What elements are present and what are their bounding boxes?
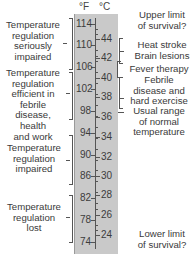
- f-label: 110: [76, 40, 91, 50]
- bracket-pointer: [118, 112, 124, 113]
- f-label: 82: [76, 193, 91, 203]
- left-annotation-seriously-impaired: Temperature regulation seriously impaire…: [2, 20, 64, 62]
- c-tick: [95, 195, 100, 196]
- bracket-seriously-impaired: [69, 18, 73, 70]
- f-label: 106: [76, 62, 91, 72]
- c-tick: [95, 39, 100, 40]
- left-annotation-impaired: Temperature regulation impaired: [2, 143, 66, 175]
- bracket-febrile: [119, 77, 123, 109]
- f-label: 74: [76, 237, 91, 247]
- f-tick: [91, 242, 96, 243]
- c-tick: [95, 117, 100, 118]
- f-label: 114: [76, 19, 91, 29]
- c-tick: [95, 78, 100, 79]
- c-tick: [95, 97, 100, 98]
- bracket-pointer: [66, 160, 70, 161]
- f-label: 94: [76, 128, 91, 138]
- c-tick: [95, 215, 100, 216]
- f-tick: [91, 198, 96, 199]
- c-label: 34: [101, 132, 112, 142]
- right-annotation-normal-range: Usual range of normal temperature: [123, 106, 195, 138]
- bracket-pointer: [120, 98, 124, 99]
- c-tick: [95, 176, 100, 177]
- c-tick: [95, 235, 100, 236]
- c-label: 36: [101, 112, 112, 122]
- f-label: 102: [76, 84, 91, 94]
- right-annotation-upper-limit: Upper limit of survival?: [128, 10, 196, 31]
- c-tick: [95, 58, 100, 59]
- f-tick: [91, 133, 96, 134]
- c-tick: [95, 137, 100, 138]
- c-label: 28: [101, 190, 112, 200]
- bracket-pointer: [63, 43, 67, 44]
- bracket-pointer: [66, 217, 70, 218]
- bracket-fever-therapy: [117, 61, 121, 78]
- right-annotation-lower-limit: Lower limit of survival?: [128, 229, 196, 250]
- c-tick: [95, 157, 100, 158]
- left-annotation-lost: Temperature regulation lost: [2, 202, 66, 234]
- c-label: 24: [101, 230, 112, 240]
- f-tick: [91, 111, 96, 112]
- c-label: 32: [101, 152, 112, 162]
- c-label: 30: [101, 171, 112, 181]
- c-label: 42: [101, 53, 112, 63]
- c-label: 38: [101, 92, 112, 102]
- right-annotation-febrile: Febrile disease and hard exercise: [123, 75, 195, 107]
- left-annotation-efficient: Temperature regulation efficient in febr…: [0, 68, 66, 142]
- f-label: 86: [76, 171, 91, 181]
- f-tick: [91, 155, 96, 156]
- c-label: 44: [101, 34, 112, 44]
- f-label: 90: [76, 150, 91, 160]
- f-tick: [91, 220, 96, 221]
- right-annotation-heat-stroke: Heat stroke Brain lesions: [128, 40, 196, 61]
- f-label: 78: [76, 215, 91, 225]
- bracket-pointer: [120, 51, 124, 52]
- c-label: 40: [101, 73, 112, 83]
- celsius-unit-label: °C: [99, 1, 110, 12]
- c-label: 26: [101, 210, 112, 220]
- bracket-pointer: [66, 93, 70, 94]
- right-annotation-fever-therapy: Fever therapy: [122, 64, 196, 75]
- bracket-efficient: [69, 72, 73, 120]
- fahrenheit-unit-label: °F: [79, 1, 89, 12]
- f-label: 98: [76, 106, 91, 116]
- bracket-lost: [69, 195, 73, 243]
